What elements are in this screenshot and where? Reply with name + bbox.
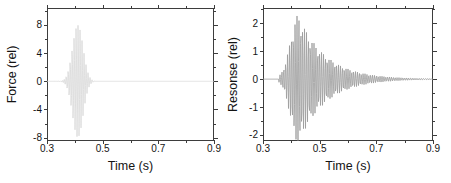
- y-tick-label: -2: [249, 129, 258, 140]
- response-plot: 0.30.50.70.9210-1-2 Resonse (rel) Time (…: [226, 5, 440, 174]
- force-x-axis-label: Time (s): [108, 159, 153, 173]
- y-tick-label: 0: [36, 76, 42, 87]
- force-waveform: [47, 25, 214, 136]
- x-tick-label: 0.9: [426, 143, 440, 154]
- x-tick-label: 0.5: [96, 143, 110, 154]
- force-y-axis-label: Force (rel): [5, 46, 19, 104]
- y-tick-label: 1: [252, 46, 258, 57]
- x-tick-label: 0.7: [151, 143, 165, 154]
- response-y-axis-label: Resonse (rel): [226, 37, 240, 112]
- y-tick-label: 0: [252, 74, 258, 85]
- y-tick-label: -1: [249, 102, 258, 113]
- force-plot: 0.30.50.70.9840-4-8 Force (rel) Time (s): [5, 5, 221, 174]
- response-x-axis-label: Time (s): [325, 159, 370, 173]
- y-tick-label: 2: [252, 18, 258, 29]
- figure-canvas: 0.30.50.70.9840-4-8 Force (rel) Time (s)…: [0, 0, 451, 183]
- y-tick-label: -8: [33, 132, 42, 143]
- dual-waveform-figure: 0.30.50.70.9840-4-8 Force (rel) Time (s)…: [0, 0, 451, 183]
- x-tick-label: 0.3: [40, 143, 54, 154]
- x-tick-label: 0.9: [207, 143, 221, 154]
- response-plot-axes: 0.30.50.70.9210-1-2: [249, 5, 440, 155]
- x-tick-label: 0.3: [256, 143, 270, 154]
- response-waveform: [263, 16, 433, 141]
- x-tick-label: 0.7: [369, 143, 383, 154]
- y-tick-label: 4: [36, 48, 42, 59]
- force-plot-axes: 0.30.50.70.9840-4-8: [33, 5, 221, 155]
- y-tick-label: 8: [36, 19, 42, 30]
- y-tick-label: -4: [33, 104, 42, 115]
- x-tick-label: 0.5: [313, 143, 327, 154]
